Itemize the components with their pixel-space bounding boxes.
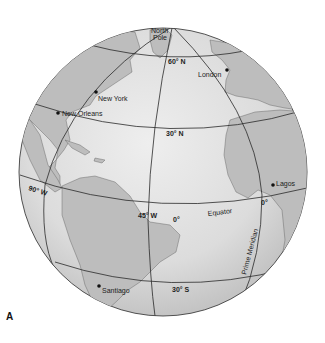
city-dot-new-orleans bbox=[56, 111, 60, 115]
lat-30s-label: 30° S bbox=[172, 286, 190, 293]
city-dot-santiago bbox=[97, 284, 101, 288]
figure-label: A bbox=[6, 311, 13, 322]
city-dot-london bbox=[225, 68, 229, 72]
lat-60n-label: 60° N bbox=[168, 58, 186, 65]
globe-diagram: North Pole 60° N 30° N 0° Equator 30° S … bbox=[0, 0, 325, 343]
city-london: London bbox=[198, 71, 221, 78]
city-new-york: New York bbox=[98, 95, 128, 102]
north-pole-label-2: Pole bbox=[153, 34, 167, 41]
north-pole-label-1: North bbox=[151, 27, 168, 34]
city-new-orleans: New Orleans bbox=[62, 110, 103, 117]
city-santiago: Santiago bbox=[102, 287, 130, 295]
equator-degree-label: 0° bbox=[173, 216, 180, 223]
lon-45w-label: 45° W bbox=[138, 212, 158, 219]
lon-0-label: 0° bbox=[261, 199, 268, 206]
city-dot-lagos bbox=[271, 183, 275, 187]
lat-30n-label: 30° N bbox=[166, 130, 184, 137]
city-lagos: Lagos bbox=[276, 180, 296, 188]
city-dot-new-york bbox=[94, 90, 98, 94]
